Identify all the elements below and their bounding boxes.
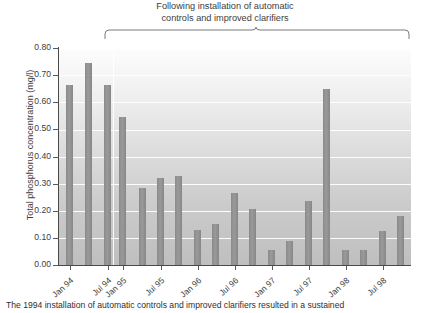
y-tick-label: 0.60 — [20, 97, 51, 107]
annotation-bracket — [104, 26, 410, 39]
bar — [249, 209, 256, 265]
y-axis-title: Total phosphorus concentration (mg/l) — [25, 25, 35, 265]
bar — [157, 178, 164, 265]
y-tick-label-text: 0.30 — [23, 179, 51, 188]
x-tick-mark — [346, 266, 347, 270]
y-tick-mark — [53, 211, 58, 212]
bar — [268, 250, 275, 265]
gridline-0.40 — [59, 157, 411, 158]
gridline-0.80 — [59, 48, 411, 49]
gridline-0.30 — [59, 184, 411, 185]
y-tick-label-text: 0.00 — [23, 260, 51, 269]
y-tick-mark — [53, 157, 58, 158]
gridline-0.70 — [59, 75, 411, 76]
x-tick-mark — [108, 266, 109, 270]
x-tick-mark — [123, 266, 124, 270]
y-tick-label: 0.50 — [20, 124, 51, 134]
y-tick-mark — [53, 75, 58, 76]
figure-caption: The 1994 installation of automatic contr… — [6, 300, 418, 312]
bar — [85, 63, 92, 265]
y-tick-label-text: 0.40 — [23, 152, 51, 161]
y-tick-label: 0.70 — [20, 70, 51, 80]
gridline-0.60 — [59, 102, 411, 103]
y-tick-label-text: 0.60 — [23, 97, 51, 106]
y-tick-label-text: 0.50 — [23, 124, 51, 133]
y-axis-line — [58, 47, 59, 266]
figure-container: Following installation of automatic cont… — [0, 0, 422, 313]
chart-annotation-title: Following installation of automatic cont… — [100, 1, 350, 24]
y-tick-label-text: 0.20 — [23, 206, 51, 215]
y-tick-label: 0.20 — [20, 206, 51, 216]
y-tick-label: 0.30 — [20, 179, 51, 189]
bar — [231, 193, 238, 265]
y-tick-label-text: 0.10 — [23, 233, 51, 242]
x-tick-mark — [70, 266, 71, 270]
y-tick-mark — [53, 48, 58, 49]
y-tick-label: 0.80 — [20, 43, 51, 53]
bar — [323, 89, 330, 265]
bar — [342, 250, 349, 265]
plot-area — [59, 48, 411, 265]
y-tick-label: 0.10 — [20, 233, 51, 243]
bar — [175, 176, 182, 266]
x-tick-mark — [383, 266, 384, 270]
bar — [305, 201, 312, 265]
x-tick-mark — [309, 266, 310, 270]
bar — [360, 250, 367, 265]
bar — [104, 85, 111, 265]
bar — [379, 231, 386, 265]
bar — [119, 117, 126, 265]
x-tick-mark — [272, 266, 273, 270]
gridline-0.50 — [59, 130, 411, 131]
y-tick-label-text: 0.80 — [23, 43, 51, 52]
bar — [212, 224, 219, 265]
y-tick-mark — [53, 238, 58, 239]
bar — [397, 216, 404, 265]
y-tick-mark — [53, 184, 58, 185]
y-tick-mark — [53, 102, 58, 103]
intervention-divider — [113, 48, 114, 265]
x-tick-mark — [161, 266, 162, 270]
y-tick-label-text: 0.70 — [23, 70, 51, 79]
bar — [66, 85, 73, 265]
x-tick-mark — [198, 266, 199, 270]
x-tick-mark — [235, 266, 236, 270]
bar — [286, 241, 293, 265]
y-tick-mark — [53, 129, 58, 130]
y-tick-mark — [53, 265, 58, 266]
y-tick-label: 0.40 — [20, 152, 51, 162]
y-tick-label: 0.00 — [20, 260, 51, 270]
bar — [139, 188, 146, 265]
bar — [194, 230, 201, 265]
